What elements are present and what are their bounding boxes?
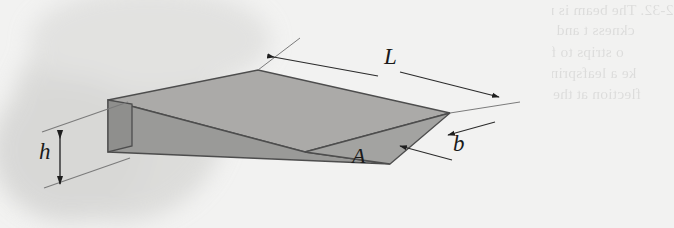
- label-b: b: [453, 131, 465, 157]
- label-point-A: A: [352, 143, 365, 169]
- label-L: L: [384, 44, 397, 70]
- label-h: h: [39, 139, 51, 165]
